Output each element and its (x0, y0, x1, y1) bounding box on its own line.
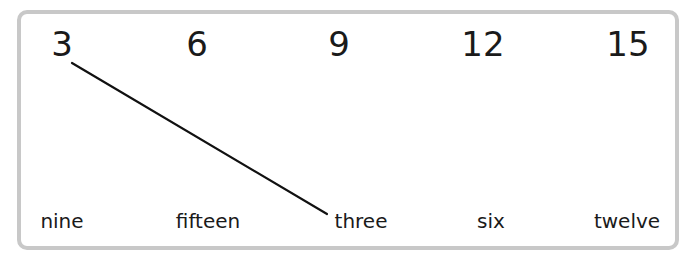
word-six[interactable]: six (477, 208, 505, 234)
number-6[interactable]: 6 (186, 24, 208, 64)
number-9[interactable]: 9 (328, 24, 350, 64)
word-three[interactable]: three (335, 208, 388, 234)
number-12[interactable]: 12 (461, 24, 504, 64)
word-twelve[interactable]: twelve (594, 208, 660, 234)
word-fifteen[interactable]: fifteen (176, 208, 240, 234)
word-nine[interactable]: nine (40, 208, 83, 234)
number-15[interactable]: 15 (606, 24, 649, 64)
number-3[interactable]: 3 (51, 24, 73, 64)
